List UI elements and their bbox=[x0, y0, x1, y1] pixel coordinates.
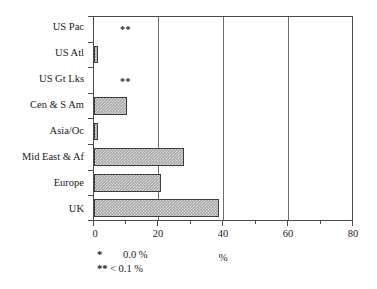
x-tick-mark-50 bbox=[255, 221, 256, 224]
x-tick-mark-0 bbox=[93, 221, 94, 226]
y-axis-label-asia-oc: Asia/Oc bbox=[50, 125, 84, 136]
x-tick-mark-80 bbox=[352, 221, 353, 226]
gridline-40 bbox=[223, 17, 224, 220]
bar-us-atl bbox=[94, 46, 98, 63]
gridline-60 bbox=[288, 17, 289, 220]
footnote-text-double-star: < 0.1 % bbox=[110, 263, 143, 274]
y-axis-label-cen-s-am: Cen & S Am bbox=[30, 99, 84, 110]
y-axis-label-us-atl: US Atl bbox=[55, 47, 84, 58]
bar-cen-s-am bbox=[94, 97, 127, 115]
x-axis-ticks bbox=[93, 221, 353, 227]
x-tick-mark-40 bbox=[222, 221, 223, 226]
x-tick-label-60: 60 bbox=[283, 228, 294, 240]
bar-europe bbox=[94, 174, 161, 192]
y-axis-label-us-gt-lks: US Gt Lks bbox=[39, 73, 84, 84]
y-axis-label-uk: UK bbox=[69, 203, 84, 214]
x-tick-label-80: 80 bbox=[348, 228, 359, 240]
footnote-single-star: *0.0 % bbox=[97, 249, 148, 261]
x-tick-label-40: 40 bbox=[218, 228, 229, 240]
x-tick-mark-10 bbox=[125, 221, 126, 224]
bar-asia-oc bbox=[94, 123, 98, 140]
bar-chart: US Pac US Atl US Gt Lks Cen & S Am Asia/… bbox=[0, 0, 377, 289]
x-tick-mark-30 bbox=[190, 221, 191, 224]
x-axis-tick-labels: 0 20 40 60 80 bbox=[0, 228, 377, 242]
y-axis-label-mid-east-af: Mid East & Af bbox=[22, 151, 84, 162]
x-tick-mark-60 bbox=[287, 221, 288, 226]
x-tick-mark-70 bbox=[320, 221, 321, 224]
plot-area: ** ** bbox=[93, 16, 353, 221]
footnote-text-single-star: 0.0 % bbox=[123, 249, 148, 260]
x-tick-mark-20 bbox=[157, 221, 158, 226]
bar-annotation-us-gt-lks: ** bbox=[120, 77, 131, 87]
x-tick-label-20: 20 bbox=[153, 228, 164, 240]
y-axis-label-us-pac: US Pac bbox=[53, 21, 84, 32]
y-axis-category-labels: US Pac US Atl US Gt Lks Cen & S Am Asia/… bbox=[0, 16, 89, 221]
footnote-double-star: **< 0.1 % bbox=[97, 263, 143, 275]
bar-mid-east-af bbox=[94, 148, 184, 166]
footnote-mark-double-star: ** bbox=[97, 263, 110, 275]
footnote-mark-single-star: * bbox=[97, 249, 123, 261]
bar-annotation-us-pac: ** bbox=[120, 25, 131, 35]
x-axis-title: % bbox=[218, 251, 227, 263]
bar-uk bbox=[94, 199, 219, 217]
y-axis-label-europe: Europe bbox=[54, 177, 84, 188]
x-tick-label-0: 0 bbox=[92, 228, 97, 240]
